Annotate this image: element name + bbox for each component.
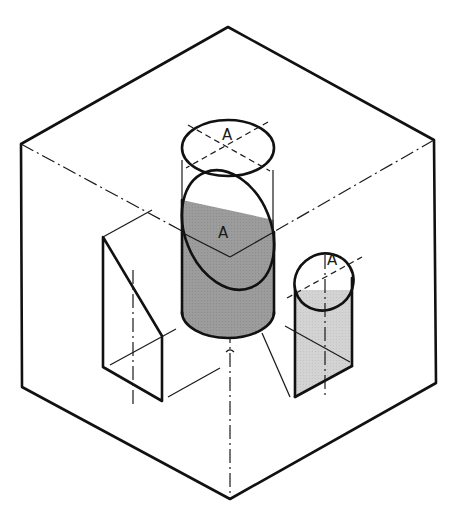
small-right-cylinder: A	[262, 243, 364, 398]
label-a-top: A	[222, 126, 233, 144]
small-cylinder-lower-line	[262, 333, 290, 397]
isometric-drawing: A A A	[0, 0, 467, 526]
top-projection-ellipse: A	[182, 120, 274, 176]
label-a-small-cylinder: A	[327, 251, 338, 269]
label-a-inclined: A	[218, 224, 229, 242]
main-cylinder: A	[165, 156, 291, 352]
prism-top-edge	[103, 210, 152, 237]
main-cylinder-body	[182, 200, 274, 338]
prism-base-line	[110, 329, 176, 365]
cylinder-bottom-tick	[226, 350, 234, 352]
prism-base-line-2	[168, 368, 220, 397]
diagram-canvas: A A A	[0, 0, 467, 526]
